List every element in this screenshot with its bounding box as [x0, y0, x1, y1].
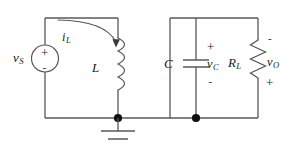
junction-dot-capacitor	[192, 114, 200, 122]
inductor-current-label: iL	[62, 31, 71, 45]
output-voltage-label-sub: O	[273, 60, 280, 70]
inductor-coil	[118, 38, 125, 90]
source-plus-sign: +	[41, 46, 48, 59]
resistor-label-text: R	[228, 55, 236, 70]
capacitor-minus-sign: -	[209, 76, 213, 87]
output-plus-sign: +	[266, 76, 273, 89]
inductor-label: L	[92, 61, 99, 74]
source-minus-sign: -	[43, 62, 47, 73]
resistor-zigzag	[251, 40, 266, 78]
voltage-source-label: vS	[13, 51, 24, 66]
output-minus-sign: -	[268, 33, 272, 44]
current-arrow-head	[112, 39, 120, 47]
capacitor-plus-sign: +	[207, 40, 214, 53]
circuit-schematic-svg	[0, 0, 292, 160]
resistor-label-sub: L	[236, 61, 241, 71]
capacitor-voltage-label-text: v	[207, 57, 213, 71]
capacitor-voltage-label: vC	[207, 58, 219, 72]
resistor-label: RL	[228, 56, 241, 71]
output-voltage-label-text: v	[267, 55, 273, 69]
capacitor-voltage-label-sub: C	[213, 62, 219, 72]
capacitor-label-text: C	[164, 56, 173, 71]
output-voltage-label: vO	[267, 56, 279, 70]
capacitor-label: C	[164, 57, 173, 70]
inductor-current-label-sub: L	[65, 35, 70, 45]
voltage-source-label-text: v	[13, 50, 19, 65]
circuit-diagram: vS + - iL L C + vC - RL - vO +	[0, 0, 292, 160]
inductor-label-text: L	[92, 60, 99, 75]
voltage-source-label-sub: S	[19, 56, 24, 66]
